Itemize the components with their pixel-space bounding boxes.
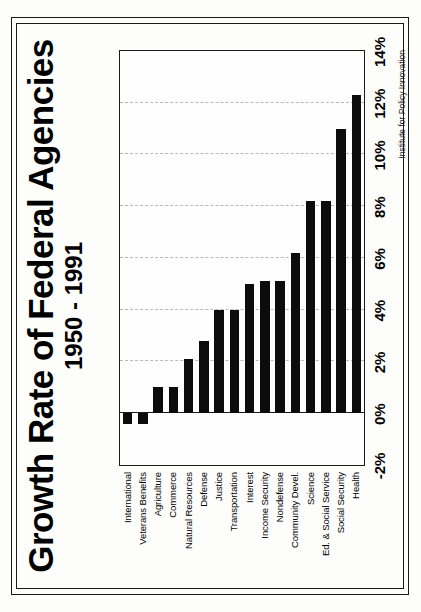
bar bbox=[336, 129, 345, 414]
chart-subtitle: 1950 - 1991 bbox=[61, 26, 86, 586]
value-axis-tick: 14% bbox=[371, 37, 388, 67]
category-label: Ed. & Social Service bbox=[319, 472, 330, 556]
bar-series bbox=[120, 51, 364, 465]
bar bbox=[153, 387, 162, 413]
category-label: Interest bbox=[243, 472, 254, 503]
value-axis-tick: 4% bbox=[371, 300, 388, 322]
bar bbox=[260, 281, 269, 413]
value-axis-tick: 2% bbox=[371, 352, 388, 374]
value-axis: -2%0%2%4%6%8%10%12%14% bbox=[371, 50, 397, 466]
attribution-text: Institute for Policy Innovation bbox=[397, 50, 407, 586]
category-axis: InternationalVeterans BenefitsAgricultur… bbox=[119, 468, 365, 586]
category-label: Nondefense bbox=[274, 472, 285, 522]
category-label: Defense bbox=[197, 472, 208, 507]
bar bbox=[138, 413, 147, 423]
title-block: Growth Rate of Federal Agencies 1950 - 1… bbox=[23, 26, 86, 586]
value-axis-tick: 10% bbox=[371, 140, 388, 170]
value-axis-tick: 6% bbox=[371, 248, 388, 270]
bar bbox=[184, 359, 193, 413]
value-axis-tick: 8% bbox=[371, 196, 388, 218]
rotated-chart-canvas: Growth Rate of Federal Agencies 1950 - 1… bbox=[19, 26, 401, 586]
category-label: Commerce bbox=[167, 472, 178, 518]
category-label: Community Devel. bbox=[289, 472, 300, 548]
bar bbox=[352, 95, 361, 413]
bar bbox=[291, 253, 300, 413]
bar bbox=[275, 281, 284, 413]
chart-title: Growth Rate of Federal Agencies bbox=[23, 26, 59, 586]
category-label: Income Security bbox=[258, 472, 269, 539]
bar bbox=[321, 201, 330, 413]
category-label: Social Security bbox=[335, 472, 346, 533]
bar bbox=[169, 387, 178, 413]
category-label: Justice bbox=[213, 472, 224, 501]
category-label: Transportation bbox=[228, 472, 239, 532]
bar bbox=[214, 310, 223, 414]
value-axis-tick: 0% bbox=[371, 403, 388, 425]
category-label: Veterans Benefits bbox=[136, 472, 147, 545]
poster-page: Growth Rate of Federal Agencies 1950 - 1… bbox=[0, 0, 421, 612]
bar bbox=[245, 284, 254, 413]
bar bbox=[230, 310, 239, 414]
category-label: Natural Resources bbox=[182, 472, 193, 549]
bar bbox=[199, 341, 208, 413]
value-axis-tick: 12% bbox=[371, 89, 388, 119]
plot-area bbox=[119, 50, 365, 466]
category-label: Agriculture bbox=[152, 472, 163, 516]
bar bbox=[123, 413, 132, 423]
inner-border: Growth Rate of Federal Agencies 1950 - 1… bbox=[16, 23, 404, 589]
category-label: Health bbox=[350, 472, 361, 499]
bar bbox=[306, 201, 315, 413]
category-label: International bbox=[121, 472, 132, 523]
category-label: Science bbox=[304, 472, 315, 505]
value-axis-tick: -2% bbox=[371, 453, 388, 480]
